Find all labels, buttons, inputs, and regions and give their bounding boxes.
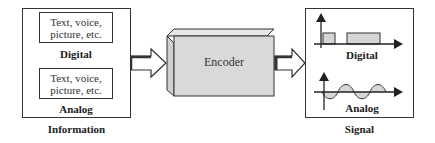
digital-info-label: Digital bbox=[39, 48, 113, 60]
analog-info-label: Analog bbox=[39, 103, 113, 115]
encoder-label: Encoder bbox=[174, 55, 274, 70]
analog-info-line1: Text, voice, bbox=[50, 72, 101, 84]
digital-info-line2: picture, etc. bbox=[50, 28, 102, 40]
analog-info-line2: picture, etc. bbox=[50, 84, 102, 96]
digital-information-box: Text, voice, picture, etc. bbox=[39, 12, 113, 43]
digital-signal-label: Digital bbox=[330, 49, 394, 61]
arrow-right-icon bbox=[275, 49, 305, 77]
signal-caption: Signal bbox=[305, 123, 414, 135]
analog-information-box: Text, voice, picture, etc. bbox=[39, 68, 113, 99]
arrow-right-icon bbox=[131, 49, 166, 77]
analog-signal-label: Analog bbox=[330, 102, 394, 114]
information-caption: Information bbox=[22, 123, 131, 135]
digital-info-line1: Text, voice, bbox=[50, 16, 101, 28]
